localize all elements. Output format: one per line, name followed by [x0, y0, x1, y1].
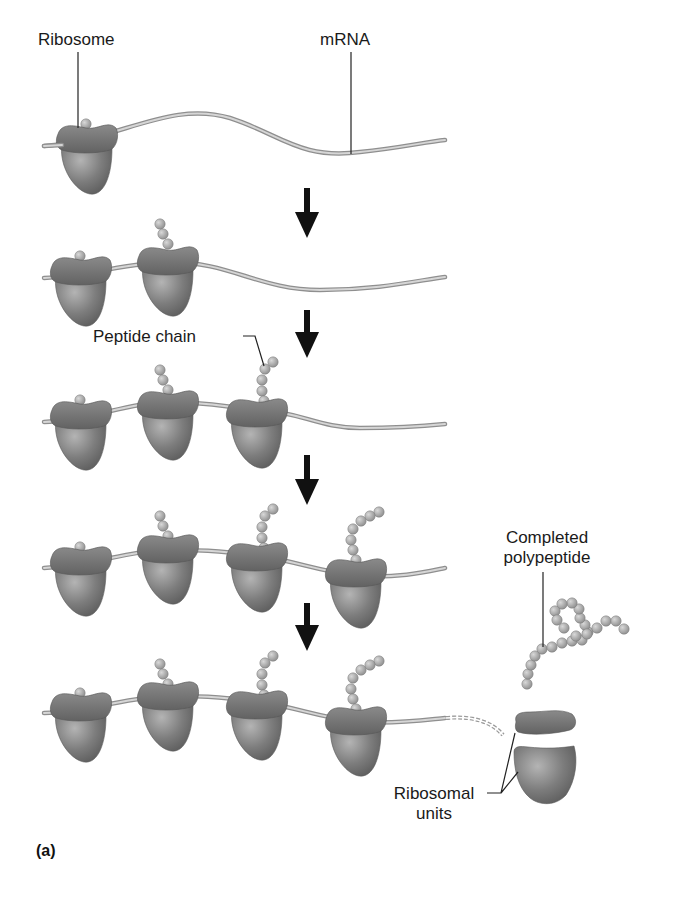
step-arrow: [295, 603, 319, 651]
completed-polypeptide: [522, 598, 629, 689]
stage-3: [44, 336, 445, 470]
completed-polypeptide-label-line2: polypeptide: [492, 548, 602, 568]
ribosome-label: Ribosome: [38, 30, 115, 50]
stage-1: [44, 52, 445, 194]
mrna-degraded-end: [446, 718, 503, 735]
completed-polypeptide-label: Completed polypeptide: [492, 528, 602, 568]
released-small-subunit: [514, 746, 576, 804]
ribosome: [56, 125, 117, 194]
step-arrow: [295, 188, 319, 238]
released-large-subunit: [515, 711, 575, 734]
mrna-label: mRNA: [320, 30, 370, 50]
completed-polypeptide-label-line1: Completed: [492, 528, 602, 548]
peptide-chain-leader-line: [243, 336, 264, 366]
ribosomal-units-label: Ribosomal units: [386, 784, 482, 824]
step-arrow: [295, 310, 319, 358]
stage-4: [44, 504, 445, 628]
step-arrow: [295, 455, 319, 505]
peptide-chain-label: Peptide chain: [93, 327, 196, 347]
ribosomal-units-label-line2: units: [386, 804, 482, 824]
ribosomal-units-label-line1: Ribosomal: [386, 784, 482, 804]
translation-diagram: [0, 0, 681, 898]
panel-label: (a): [36, 842, 56, 860]
stage-2: [44, 219, 445, 326]
ribosomal-units-leader-line: [487, 733, 518, 793]
